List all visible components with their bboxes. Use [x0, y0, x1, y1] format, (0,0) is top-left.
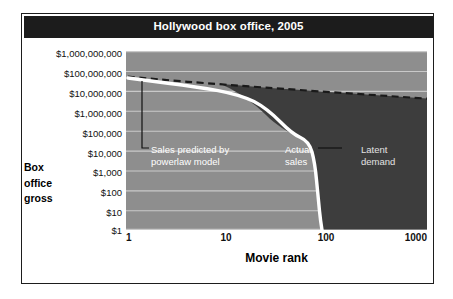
y-tick-label: $1,000,000,000	[22, 49, 122, 59]
annotation-powerlaw: Sales predicted by powerlaw model	[151, 144, 229, 167]
y-axis-title-line: gross	[24, 191, 72, 207]
plot-svg	[126, 51, 427, 230]
plot-area: Sales predicted by powerlaw model Actual…	[126, 51, 427, 230]
annotation-powerlaw-line1: Sales predicted by	[151, 144, 229, 156]
y-tick-label: $100,000,000	[22, 69, 122, 79]
y-tick-label: $1	[22, 226, 122, 236]
annotation-actual-line2: sales	[285, 156, 311, 168]
x-axis-tick-labels: 1 10 100 1000	[126, 233, 427, 247]
chart-figure: Hollywood box office, 2005 $1,000,000,00…	[0, 0, 453, 299]
y-tick-label: $10,000,000	[22, 89, 122, 99]
x-tick-label: 1	[126, 233, 132, 243]
y-tick-label: $10,000	[22, 149, 122, 159]
annotation-latent-line1: Latent	[361, 144, 395, 156]
chart-title: Hollywood box office, 2005	[153, 21, 303, 33]
annotation-latent-line2: demand	[361, 156, 395, 168]
x-axis-title: Movie rank	[126, 252, 427, 264]
chart-title-bar: Hollywood box office, 2005	[24, 16, 433, 38]
y-tick-label: $100,000	[22, 129, 122, 139]
x-tick-label: 100	[318, 233, 335, 243]
annotation-actual-sales: Actual sales	[285, 144, 311, 167]
annotation-latent-demand: Latent demand	[361, 144, 395, 167]
y-tick-label: $1,000,000	[22, 109, 122, 119]
x-tick-label: 1000	[405, 233, 427, 243]
y-tick-label: $10	[22, 208, 122, 218]
annotation-powerlaw-line2: powerlaw model	[151, 156, 229, 168]
y-axis-title-line: office	[24, 176, 72, 192]
y-axis-title: Box office gross	[24, 160, 72, 207]
annotation-actual-line1: Actual	[285, 144, 311, 156]
x-tick-label: 10	[220, 233, 231, 243]
y-axis-title-line: Box	[24, 160, 72, 176]
